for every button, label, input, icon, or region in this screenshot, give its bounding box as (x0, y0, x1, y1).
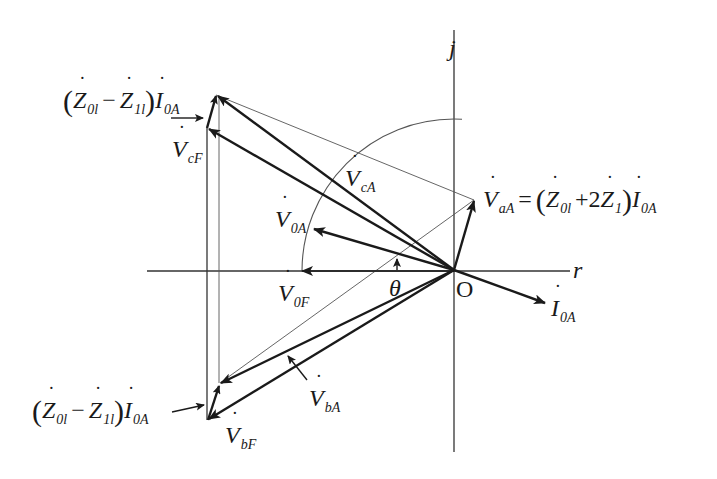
vector-VbA (221, 270, 454, 383)
vector-VcA (218, 96, 454, 270)
real-axis-label: r (573, 258, 582, 282)
label-VbA: VbA (309, 386, 340, 415)
pointer-bottom-expr (172, 405, 204, 412)
label-bottom-delta-expr: (Z0l − Z1l)I0A (32, 396, 149, 427)
label-V0A: V0A (275, 207, 306, 236)
label-VcF: VcF (172, 137, 202, 166)
vector-delta-top (207, 96, 216, 128)
label-V0F: V0F (278, 281, 309, 310)
construction-line-diag (220, 200, 474, 383)
origin-label: O (456, 277, 473, 301)
label-top-delta-expr: (Z0l − Z1l)I0A (63, 86, 180, 117)
vector-VaA (454, 201, 474, 270)
label-VcA: VcA (345, 166, 375, 195)
vector-V0A (314, 229, 454, 270)
imag-axis-label: j (449, 36, 456, 60)
label-VaA-equation: VaA = (Z0l +2Z1)I0A (483, 185, 657, 216)
label-VbF: VbF (225, 423, 256, 452)
theta-label: θ (389, 276, 401, 300)
vector-VcF (209, 129, 454, 270)
label-I0A: I0A (551, 296, 576, 325)
